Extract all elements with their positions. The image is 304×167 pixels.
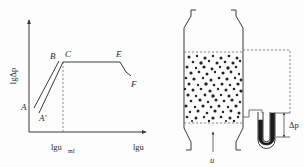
chart-point-label-f: F bbox=[130, 79, 137, 89]
chart-point-label-b: B bbox=[50, 51, 56, 61]
chart-point-label-e: E bbox=[115, 49, 122, 59]
delta-p-label: Δp bbox=[289, 120, 299, 130]
chart-point-label-c: C bbox=[65, 49, 72, 59]
apparatus-panel: Δp u bbox=[184, 10, 299, 165]
column-bottom-left-taper bbox=[184, 128, 191, 150]
inlet-velocity-label: u bbox=[210, 155, 214, 165]
upper-pressure-tap-line bbox=[243, 50, 290, 113]
column-right-wall bbox=[231, 10, 243, 128]
column-bottom-right-taper bbox=[236, 128, 243, 150]
chart-point-label-a-prime: A′ bbox=[38, 113, 47, 123]
manometer-tube-inner bbox=[263, 112, 270, 142]
chart-point-label-a: A bbox=[20, 102, 27, 112]
curve-segment-ef bbox=[120, 62, 131, 76]
fluidization-figure: lgΔp lgu lgu mf A A′ B C E F bbox=[0, 0, 304, 167]
chart-y-axis-label: lgΔp bbox=[8, 68, 18, 84]
lower-pressure-tap-line bbox=[243, 110, 262, 117]
curve-segment-ab bbox=[34, 61, 59, 108]
manometer-fluid bbox=[259, 113, 275, 145]
chart-panel: lgΔp lgu lgu mf A A′ B C E F bbox=[8, 20, 146, 154]
curve-segment-a-prime-c bbox=[39, 62, 63, 113]
chart-x-tick-label: lgu bbox=[51, 142, 63, 152]
chart-x-axis-label: lgu bbox=[133, 142, 145, 152]
particle-bed bbox=[184, 55, 243, 123]
figure-canvas: lgΔp lgu lgu mf A A′ B C E F bbox=[0, 0, 304, 167]
column-left-wall bbox=[184, 10, 196, 128]
chart-x-tick-label-subscript: mf bbox=[68, 148, 75, 154]
